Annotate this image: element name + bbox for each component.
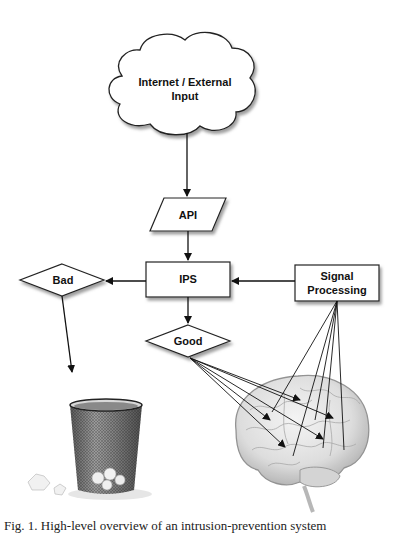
good-label: Good xyxy=(174,335,203,347)
bad-label: Bad xyxy=(53,274,74,286)
edge-bad-trash xyxy=(62,296,72,372)
node-ips: IPS xyxy=(146,262,230,297)
ips-label: IPS xyxy=(179,273,197,285)
trash-can-image xyxy=(28,399,152,500)
node-bad: Bad xyxy=(20,264,104,296)
node-internet-cloud: Internet / External Input xyxy=(109,32,255,134)
signal-label-line1: Signal xyxy=(320,270,353,282)
figure-caption: Fig. 1. High-level overview of an intrus… xyxy=(4,518,326,534)
internet-label-line2: Input xyxy=(172,90,199,102)
node-api: API xyxy=(150,198,226,231)
node-signal-processing: Signal Processing xyxy=(295,265,379,301)
brain-image xyxy=(236,375,369,512)
node-good: Good xyxy=(146,325,230,357)
internet-label-line1: Internet / External xyxy=(139,76,232,88)
signal-label-line2: Processing xyxy=(307,284,366,296)
api-label: API xyxy=(179,209,197,221)
